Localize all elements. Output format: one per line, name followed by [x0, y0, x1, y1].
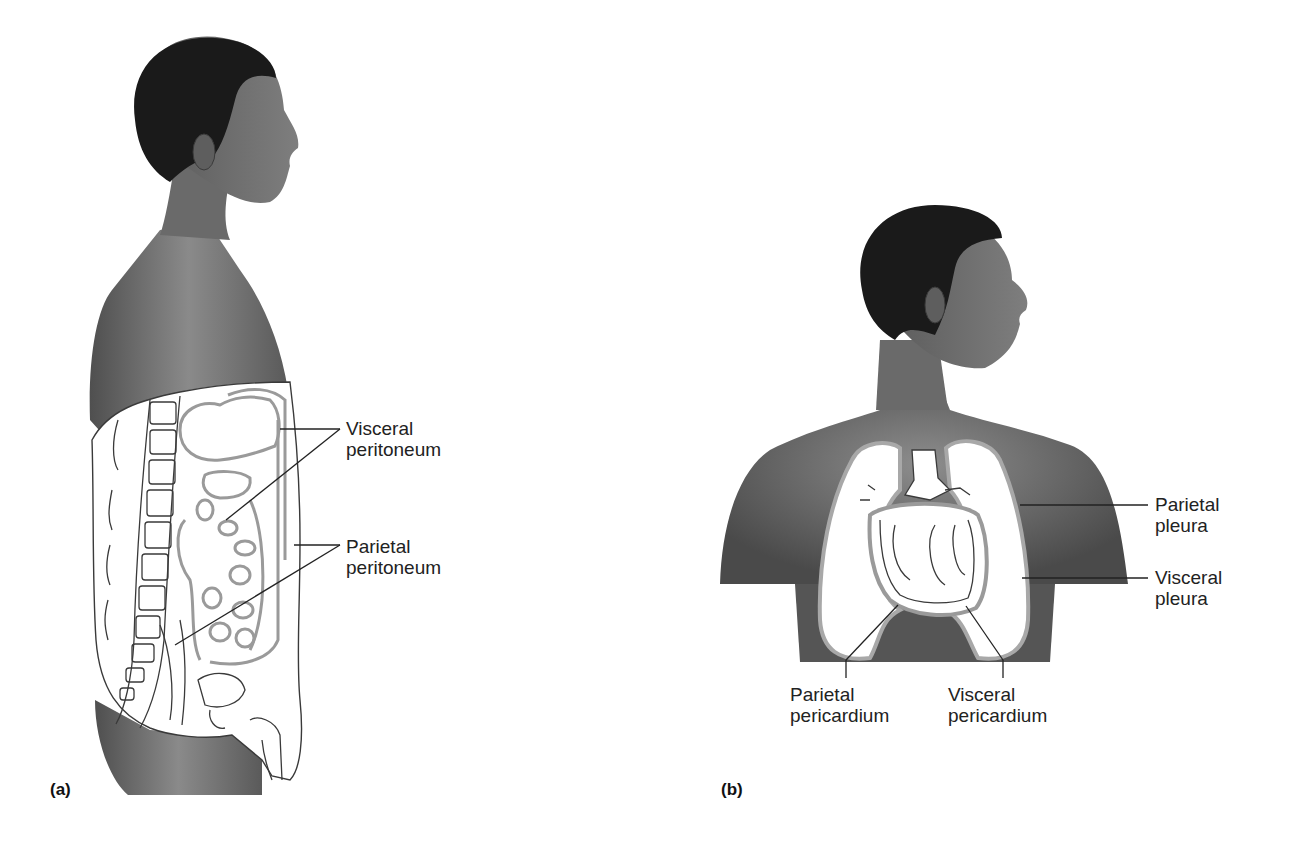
- ear: [193, 134, 215, 170]
- panel-marker-a: (a): [50, 780, 71, 800]
- label-visceral-pleura: Visceral pleura: [1155, 567, 1222, 609]
- label-parietal-pleura: Parietal pleura: [1155, 494, 1219, 536]
- panel-marker-b: (b): [721, 780, 743, 800]
- panel-b: [720, 205, 1148, 678]
- label-parietal-pericardium: Parietal pericardium: [790, 684, 889, 726]
- label-parietal-peritoneum: Parietal peritoneum: [346, 536, 441, 578]
- anatomy-figure: [0, 0, 1297, 849]
- ear: [925, 287, 945, 323]
- panel-a: [90, 36, 340, 795]
- label-visceral-pericardium: Visceral pericardium: [948, 684, 1047, 726]
- label-visceral-peritoneum: Visceral peritoneum: [346, 418, 441, 460]
